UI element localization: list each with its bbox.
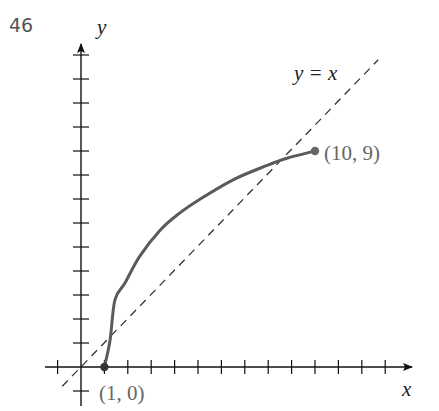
- start-point: [100, 363, 108, 371]
- start-point-label: (1, 0): [99, 381, 145, 405]
- end-point: [311, 147, 319, 155]
- problem-number: 46: [9, 14, 33, 36]
- plot-area: y x y = x (10, 9) (1, 0): [0, 0, 439, 411]
- figure: 46 y x y = x (10, 9) (1, 0): [0, 0, 439, 411]
- end-point-label: (10, 9): [324, 141, 380, 165]
- line-label: y = x: [292, 61, 338, 85]
- y-axis-label: y: [95, 15, 107, 39]
- curve: [104, 151, 315, 367]
- x-axis-label: x: [401, 377, 412, 401]
